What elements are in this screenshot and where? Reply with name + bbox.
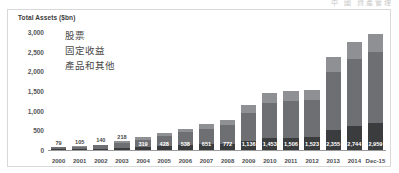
bar-2012[interactable] xyxy=(304,90,319,150)
bar-segment-2009-products-other xyxy=(241,105,256,113)
page-header-strip: 中 國 資產管理 xyxy=(0,0,399,9)
bar-value-label-2003: 218 xyxy=(111,134,132,140)
y-axis-tick: 3,000 xyxy=(8,29,44,36)
x-axis-tick-2007: 2007 xyxy=(196,158,217,164)
x-axis-tick-2005: 2005 xyxy=(154,158,175,164)
x-axis-tick-Dec-15: Dec-15 xyxy=(365,158,386,164)
bar-series-container: 791051402183194285386517721,1361,4531,50… xyxy=(48,10,386,167)
bar-segment-2011-equity xyxy=(283,138,298,151)
bar-2008[interactable] xyxy=(220,120,235,150)
x-axis-tick-2001: 2001 xyxy=(69,158,90,164)
x-axis-tick-2004: 2004 xyxy=(133,158,154,164)
header-ghost-text: 中 國 資產管理 xyxy=(331,0,393,7)
x-axis-tick-2009: 2009 xyxy=(238,158,259,164)
bar-segment-2005-equity xyxy=(157,146,172,150)
y-axis-tick: 2,500 xyxy=(8,48,44,55)
bar-segment-2002-equity xyxy=(93,149,108,150)
bar-value-label-2001: 105 xyxy=(69,139,90,145)
bar-2013[interactable] xyxy=(326,57,341,150)
bar-segment-2006-fixed-income xyxy=(178,132,193,145)
bar-segment-2010-fixed-income xyxy=(262,103,277,138)
bar-segment-2008-fixed-income xyxy=(220,125,235,144)
bar-segment-2011-fixed-income xyxy=(283,101,298,138)
bar-2009[interactable] xyxy=(241,105,256,150)
x-axis-tick-2012: 2012 xyxy=(302,158,323,164)
plot-area: 05001,0001,5002,0002,5003,000 股票 固定收益 產品… xyxy=(8,10,391,167)
bar-segment-2000-equity xyxy=(51,149,66,150)
bar-segment-Dec-15-equity xyxy=(368,123,383,150)
x-axis-tick-2000: 2000 xyxy=(48,158,69,164)
bar-2014[interactable] xyxy=(347,42,362,150)
x-axis-tick-2010: 2010 xyxy=(259,158,280,164)
bar-segment-2004-fixed-income xyxy=(135,140,150,148)
bar-segment-2009-fixed-income xyxy=(241,113,256,141)
x-axis-tick-2013: 2013 xyxy=(323,158,344,164)
bar-value-label-2002: 140 xyxy=(90,137,111,143)
bar-segment-2011-products-other xyxy=(283,91,298,101)
bar-2003[interactable] xyxy=(114,141,129,150)
bar-segment-Dec-15-fixed-income xyxy=(368,52,383,123)
bar-2001[interactable] xyxy=(72,146,87,150)
bar-segment-2006-equity xyxy=(178,145,193,150)
y-axis-tick: 2,000 xyxy=(8,68,44,75)
bar-segment-2013-products-other xyxy=(326,57,341,72)
bar-segment-2009-equity xyxy=(241,141,256,150)
bar-segment-2004-equity xyxy=(135,147,150,150)
bar-2010[interactable] xyxy=(262,93,277,150)
bar-2004[interactable] xyxy=(135,137,150,150)
bar-segment-2010-products-other xyxy=(262,93,277,103)
bar-segment-2013-fixed-income xyxy=(326,72,341,129)
bar-2007[interactable] xyxy=(199,124,214,150)
bar-segment-2014-products-other xyxy=(347,42,362,59)
bar-segment-Dec-15-products-other xyxy=(368,34,383,52)
x-axis-tick-2003: 2003 xyxy=(111,158,132,164)
bar-2002[interactable] xyxy=(93,145,108,151)
x-axis-tick-2014: 2014 xyxy=(344,158,365,164)
x-axis-tick-2011: 2011 xyxy=(280,158,301,164)
bar-2000[interactable] xyxy=(51,147,66,150)
bar-segment-2012-products-other xyxy=(304,90,319,100)
bar-value-label-2000: 79 xyxy=(48,140,69,146)
bar-segment-2013-equity xyxy=(326,130,341,150)
bar-segment-2001-equity xyxy=(72,149,87,150)
y-axis-tick: 1,500 xyxy=(8,88,44,95)
y-axis-tick: 500 xyxy=(8,127,44,134)
x-axis-tick-2002: 2002 xyxy=(90,158,111,164)
bar-segment-2012-equity xyxy=(304,137,319,150)
bar-segment-2003-equity xyxy=(114,148,129,150)
y-axis-tick: 1,000 xyxy=(8,107,44,114)
bar-segment-2007-fixed-income xyxy=(199,129,214,145)
chart-screenshot: 中 國 資產管理 Total Assets ($bn) 05001,0001,5… xyxy=(0,0,399,173)
bar-segment-2007-equity xyxy=(199,144,214,150)
bar-2011[interactable] xyxy=(283,91,298,150)
bar-segment-2005-fixed-income xyxy=(157,136,172,146)
bar-segment-2012-fixed-income xyxy=(304,100,319,137)
x-axis-tick-2006: 2006 xyxy=(175,158,196,164)
bar-Dec-15[interactable] xyxy=(368,34,383,150)
bar-segment-2014-equity xyxy=(347,126,362,150)
x-axis-tick-2008: 2008 xyxy=(217,158,238,164)
chart-card: Total Assets ($bn) 05001,0001,5002,0002,… xyxy=(7,9,391,167)
y-axis-tick: 0 xyxy=(8,147,44,154)
bar-2005[interactable] xyxy=(157,133,172,150)
bar-segment-2010-equity xyxy=(262,138,277,150)
bar-2006[interactable] xyxy=(178,129,193,150)
bar-segment-2008-equity xyxy=(220,144,235,150)
bar-segment-2014-fixed-income xyxy=(347,59,362,126)
